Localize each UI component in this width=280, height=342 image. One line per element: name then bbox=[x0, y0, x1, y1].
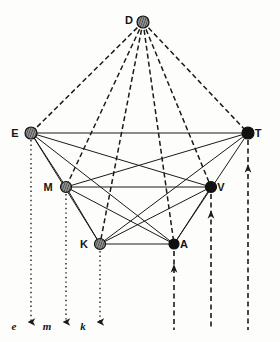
dashed-rise-line-layer bbox=[171, 140, 252, 330]
rise-arrowhead-t bbox=[245, 164, 252, 173]
node-v[interactable] bbox=[206, 182, 217, 193]
node-a[interactable] bbox=[169, 239, 179, 249]
dashed-edge-d-v bbox=[143, 22, 211, 187]
axis-label-e: e bbox=[12, 320, 17, 332]
node-label-v: V bbox=[217, 181, 225, 193]
node-d[interactable] bbox=[137, 16, 149, 28]
dashed-edge-d-e bbox=[31, 22, 143, 133]
node-label-a: A bbox=[180, 238, 188, 250]
node-label-e: E bbox=[11, 127, 18, 139]
node-t[interactable] bbox=[242, 127, 254, 139]
dashed-edge-d-m bbox=[66, 22, 143, 187]
solid-edge-k-t bbox=[100, 133, 248, 244]
dashed-edge-d-t bbox=[143, 22, 248, 133]
axis-label-m: m bbox=[43, 320, 52, 332]
node-e[interactable] bbox=[25, 127, 37, 139]
axis-label-k: k bbox=[80, 320, 86, 332]
diagram-figure: DETMVKA emk bbox=[0, 0, 280, 342]
dotted-drop-line-layer bbox=[31, 140, 100, 322]
axis-label-layer: emk bbox=[12, 320, 87, 332]
solid-edge-e-v bbox=[31, 133, 211, 187]
solid-edge-m-t bbox=[66, 133, 248, 187]
node-label-t: T bbox=[255, 127, 262, 139]
node-label-m: M bbox=[43, 181, 52, 193]
node-m[interactable] bbox=[61, 182, 72, 193]
rise-arrowhead-v bbox=[208, 210, 215, 219]
solid-edge-k-v bbox=[100, 187, 211, 244]
network-diagram: DETMVKA emk bbox=[0, 0, 280, 342]
node-label-k: K bbox=[80, 238, 88, 250]
node-label-d: D bbox=[125, 14, 133, 26]
node-k[interactable] bbox=[95, 239, 106, 250]
